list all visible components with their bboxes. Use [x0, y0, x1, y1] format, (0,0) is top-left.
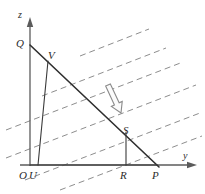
dashed-parallel-line-1: [42, 48, 166, 96]
parallel-dashed-family: [6, 29, 202, 190]
point-label-V: V: [48, 50, 55, 61]
y-axis-arrowhead: [187, 162, 197, 168]
point-label-P: P: [152, 170, 159, 181]
z-axis-arrowhead: [27, 17, 33, 27]
dashed-parallel-line-5: [60, 136, 202, 190]
segments-group: [30, 45, 159, 167]
point-label-O: O: [19, 170, 27, 181]
point-label-U: U: [29, 170, 37, 181]
dashed-parallel-line-0: [80, 29, 149, 56]
dashed-parallel-line-2: [6, 62, 183, 130]
hypotenuse-QP: [30, 45, 159, 167]
dashed-parallel-line-3: [6, 85, 196, 158]
point-label-R: R: [120, 170, 127, 181]
y-axis-label: y: [183, 151, 187, 161]
point-label-S: S: [123, 125, 129, 136]
geometry-figure: QVSOURP z y: [0, 0, 205, 194]
z-axis-label: z: [18, 10, 22, 20]
segment-UV: [38, 61, 48, 165]
point-label-Q: Q: [16, 38, 24, 49]
figure-canvas: [0, 0, 205, 194]
